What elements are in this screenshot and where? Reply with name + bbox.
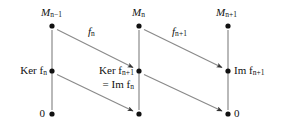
node-label-mid-left-sub: n (43, 68, 47, 77)
node-label-mid-right-sub: n+1 (253, 68, 265, 77)
node-label-top-right-main: M (216, 6, 225, 18)
node-dot-bottom-middle (136, 111, 141, 116)
edge-label-fn-sub: n (91, 29, 95, 38)
node-label-top-middle: Mn (132, 6, 145, 20)
edge-label-fn: fn (88, 25, 95, 38)
node-label-mid-middle-sub: n+1 (122, 68, 134, 77)
node-label-mid-left-main: Ker f (20, 64, 43, 76)
node-label-top-right: Mn+1 (216, 6, 237, 20)
edge-fn-arrow (57, 30, 133, 68)
node-label-top-left-sub: n−1 (50, 10, 62, 19)
node-dot-bottom-left (49, 111, 54, 116)
node-label-mid-middle-line2: = Im fn (55, 78, 134, 92)
node-label-top-middle-main: M (132, 6, 141, 18)
node-label-top-right-sub: n+1 (225, 10, 237, 19)
node-label-bottom-left: 0 (24, 107, 45, 119)
node-label-mid-left: Ker fn (0, 64, 47, 78)
node-label-mid-middle-line1: Ker fn+1 (55, 64, 134, 78)
node-label-bottom-right-main: 0 (234, 107, 240, 119)
node-label-mid-middle-extra: = Im f (103, 78, 131, 90)
node-label-mid-middle: Ker fn+1 = Im fn (55, 64, 134, 92)
node-label-mid-right-main: Im f (234, 64, 253, 76)
edge-label-fn-plus-1-sub: n+1 (175, 29, 187, 38)
node-dot-mid-right (225, 68, 230, 73)
node-label-mid-right: Im fn+1 (234, 64, 265, 78)
node-label-top-left-main: M (41, 6, 50, 18)
node-label-bottom-left-main: 0 (40, 107, 46, 119)
node-dot-bottom-right (225, 111, 230, 116)
node-label-mid-middle-extra-sub: n (130, 82, 134, 91)
edge-ker-fn-plus-1-to-zero-arrow (144, 75, 222, 112)
node-label-top-middle-sub: n (141, 10, 145, 19)
edge-label-fn-plus-1: fn+1 (172, 25, 187, 38)
node-label-bottom-right: 0 (234, 107, 240, 119)
node-dot-top-left (49, 23, 54, 28)
node-dot-mid-middle (136, 68, 141, 73)
commutative-diagram: Mn−1 Mn Mn+1 Ker fn Ker fn+1 = Im fn Im … (0, 0, 285, 128)
node-dot-top-middle (136, 23, 141, 28)
node-label-top-left: Mn−1 (41, 6, 62, 20)
node-dot-mid-left (49, 68, 54, 73)
node-label-mid-middle-main: Ker f (99, 64, 122, 76)
node-dot-top-right (225, 23, 230, 28)
